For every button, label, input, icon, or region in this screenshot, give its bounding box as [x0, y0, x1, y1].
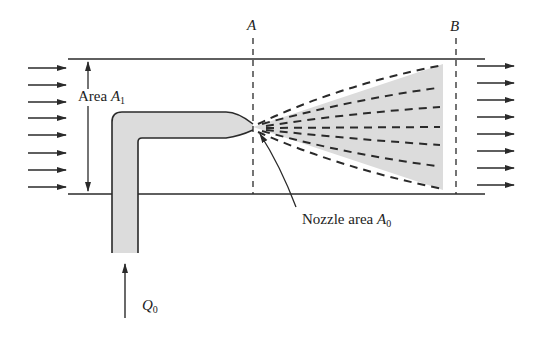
nozzle-area-label: Nozzle area A0 [302, 212, 391, 229]
jet-pump-diagram [0, 0, 536, 338]
supply-pipe [112, 112, 253, 253]
section-label-b: B [450, 19, 459, 34]
inflow-arrows [28, 68, 66, 187]
outflow-arrows [477, 66, 514, 185]
section-label-a: A [247, 18, 256, 33]
area-a1-label: Area A1 [77, 89, 126, 106]
flow-rate-label: Q0 [142, 298, 158, 315]
